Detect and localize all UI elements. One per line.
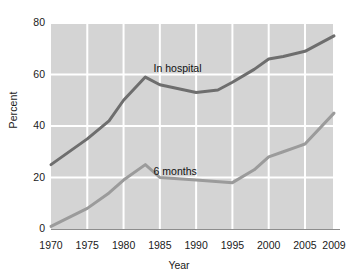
y-axis-tick-label: 40 <box>19 120 45 131</box>
x-axis-tick-label: 1995 <box>212 240 252 251</box>
x-axis-tick-label: 1975 <box>67 240 107 251</box>
series-label: In hospital <box>154 62 202 74</box>
line-chart-plot <box>0 0 358 280</box>
y-axis-tick-label: 0 <box>19 223 45 234</box>
y-axis-tick-label: 20 <box>19 172 45 183</box>
y-axis-tick-label: 80 <box>19 17 45 28</box>
y-axis-title: Percent <box>7 75 19 145</box>
x-axis-tick-label: 2009 <box>314 240 354 251</box>
x-axis-tick-label: 1990 <box>176 240 216 251</box>
x-axis-tick-label: 1980 <box>104 240 144 251</box>
x-axis-tick-label: 2000 <box>249 240 289 251</box>
chart-figure: Percent Year 806040200 19701975198019851… <box>0 0 358 280</box>
y-axis-tick-label: 60 <box>19 69 45 80</box>
x-axis-tick-label: 1985 <box>140 240 180 251</box>
x-axis-title: Year <box>0 259 358 271</box>
series-label: 6 months <box>154 165 197 177</box>
x-axis-tick-label: 1970 <box>31 240 71 251</box>
